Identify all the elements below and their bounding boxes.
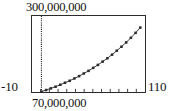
data-point-marker <box>139 26 142 29</box>
data-markers <box>40 26 141 92</box>
data-point-marker <box>134 32 137 35</box>
data-point-marker <box>73 77 76 80</box>
x-axis-max-label: 110 <box>148 80 166 93</box>
y-axis-max-label: 300,000,000 <box>26 1 86 14</box>
data-point-marker <box>45 89 48 92</box>
data-point-marker <box>106 57 109 60</box>
y-axis-min-label: 70,000,000 <box>32 97 86 110</box>
data-curve <box>41 28 140 92</box>
data-point-marker <box>68 79 71 82</box>
chart-container: 300,000,000 70,000,000 -10 110 <box>0 0 170 111</box>
data-point-marker <box>54 85 57 88</box>
data-point-marker <box>78 75 81 78</box>
x-axis-min-label: -10 <box>1 80 18 93</box>
plot-area <box>31 15 146 93</box>
data-point-marker <box>101 60 104 63</box>
data-point-marker <box>125 41 128 44</box>
data-point-marker <box>111 53 114 56</box>
data-point-marker <box>83 72 86 75</box>
plot-svg <box>32 16 145 92</box>
x-axis-ticks <box>41 89 137 92</box>
data-point-marker <box>87 70 90 73</box>
data-point-marker <box>64 81 67 84</box>
data-point-marker <box>115 49 118 52</box>
data-point-marker <box>92 67 95 70</box>
data-point-marker <box>40 90 43 92</box>
data-point-marker <box>59 83 62 86</box>
data-point-marker <box>130 37 133 40</box>
data-point-marker <box>120 45 123 48</box>
data-point-marker <box>50 87 53 90</box>
data-point-marker <box>97 64 100 67</box>
